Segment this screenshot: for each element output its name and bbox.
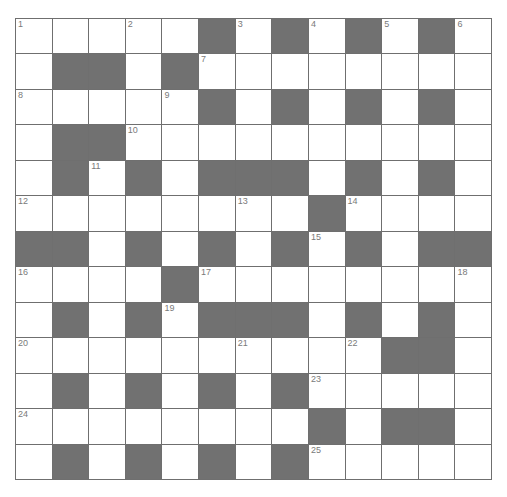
answer-cell[interactable] [382,196,418,230]
answer-cell[interactable] [309,161,345,195]
answer-cell[interactable] [455,125,491,159]
answer-cell[interactable] [53,90,89,124]
answer-cell[interactable] [309,303,345,337]
answer-cell[interactable] [53,267,89,301]
answer-cell[interactable] [16,445,52,479]
answer-cell[interactable] [455,90,491,124]
answer-cell[interactable] [346,267,382,301]
answer-cell[interactable]: 14 [346,196,382,230]
answer-cell[interactable] [199,125,235,159]
answer-cell[interactable] [162,19,198,53]
answer-cell[interactable] [89,409,125,443]
answer-cell[interactable] [162,338,198,372]
answer-cell[interactable]: 4 [309,19,345,53]
answer-cell[interactable] [346,125,382,159]
answer-cell[interactable] [382,374,418,408]
answer-cell[interactable]: 2 [126,19,162,53]
answer-cell[interactable] [162,445,198,479]
answer-cell[interactable] [272,267,308,301]
answer-cell[interactable] [89,90,125,124]
answer-cell[interactable] [162,232,198,266]
answer-cell[interactable] [382,90,418,124]
answer-cell[interactable] [455,374,491,408]
answer-cell[interactable] [419,267,455,301]
answer-cell[interactable] [455,303,491,337]
answer-cell[interactable] [309,267,345,301]
answer-cell[interactable] [162,409,198,443]
answer-cell[interactable] [16,161,52,195]
answer-cell[interactable]: 16 [16,267,52,301]
answer-cell[interactable] [126,54,162,88]
answer-cell[interactable] [455,54,491,88]
answer-cell[interactable] [236,374,272,408]
answer-cell[interactable] [309,90,345,124]
answer-cell[interactable]: 21 [236,338,272,372]
answer-cell[interactable] [346,445,382,479]
answer-cell[interactable]: 19 [162,303,198,337]
answer-cell[interactable] [309,54,345,88]
answer-cell[interactable]: 25 [309,445,345,479]
answer-cell[interactable] [382,232,418,266]
answer-cell[interactable] [419,125,455,159]
answer-cell[interactable]: 9 [162,90,198,124]
answer-cell[interactable] [382,54,418,88]
answer-cell[interactable] [89,303,125,337]
answer-cell[interactable] [419,445,455,479]
answer-cell[interactable] [455,409,491,443]
answer-cell[interactable] [455,338,491,372]
answer-cell[interactable] [236,232,272,266]
answer-cell[interactable]: 7 [199,54,235,88]
answer-cell[interactable] [126,196,162,230]
answer-cell[interactable]: 22 [346,338,382,372]
answer-cell[interactable] [16,303,52,337]
answer-cell[interactable] [53,409,89,443]
answer-cell[interactable] [382,125,418,159]
answer-cell[interactable] [199,196,235,230]
answer-cell[interactable]: 13 [236,196,272,230]
answer-cell[interactable] [162,161,198,195]
answer-cell[interactable] [126,90,162,124]
answer-cell[interactable]: 23 [309,374,345,408]
answer-cell[interactable] [272,338,308,372]
answer-cell[interactable] [236,54,272,88]
answer-cell[interactable] [162,125,198,159]
answer-cell[interactable] [236,445,272,479]
answer-cell[interactable]: 20 [16,338,52,372]
answer-cell[interactable]: 11 [89,161,125,195]
answer-cell[interactable] [236,125,272,159]
answer-cell[interactable] [89,445,125,479]
answer-cell[interactable] [236,409,272,443]
answer-cell[interactable] [382,303,418,337]
answer-cell[interactable] [455,161,491,195]
answer-cell[interactable]: 3 [236,19,272,53]
answer-cell[interactable] [419,54,455,88]
answer-cell[interactable]: 15 [309,232,345,266]
answer-cell[interactable] [162,196,198,230]
answer-cell[interactable] [236,267,272,301]
answer-cell[interactable] [346,374,382,408]
answer-cell[interactable] [382,161,418,195]
answer-cell[interactable] [199,338,235,372]
answer-cell[interactable]: 1 [16,19,52,53]
answer-cell[interactable]: 18 [455,267,491,301]
answer-cell[interactable] [53,196,89,230]
answer-cell[interactable] [272,125,308,159]
answer-cell[interactable] [346,54,382,88]
answer-cell[interactable] [89,338,125,372]
answer-cell[interactable] [309,125,345,159]
answer-cell[interactable] [455,445,491,479]
answer-cell[interactable] [346,409,382,443]
answer-cell[interactable] [236,90,272,124]
answer-cell[interactable] [455,196,491,230]
answer-cell[interactable] [89,374,125,408]
answer-cell[interactable]: 8 [16,90,52,124]
answer-cell[interactable]: 12 [16,196,52,230]
answer-cell[interactable]: 5 [382,19,418,53]
answer-cell[interactable] [89,19,125,53]
answer-cell[interactable] [16,125,52,159]
answer-cell[interactable] [126,409,162,443]
answer-cell[interactable] [126,338,162,372]
answer-cell[interactable] [89,196,125,230]
answer-cell[interactable] [16,54,52,88]
answer-cell[interactable]: 17 [199,267,235,301]
